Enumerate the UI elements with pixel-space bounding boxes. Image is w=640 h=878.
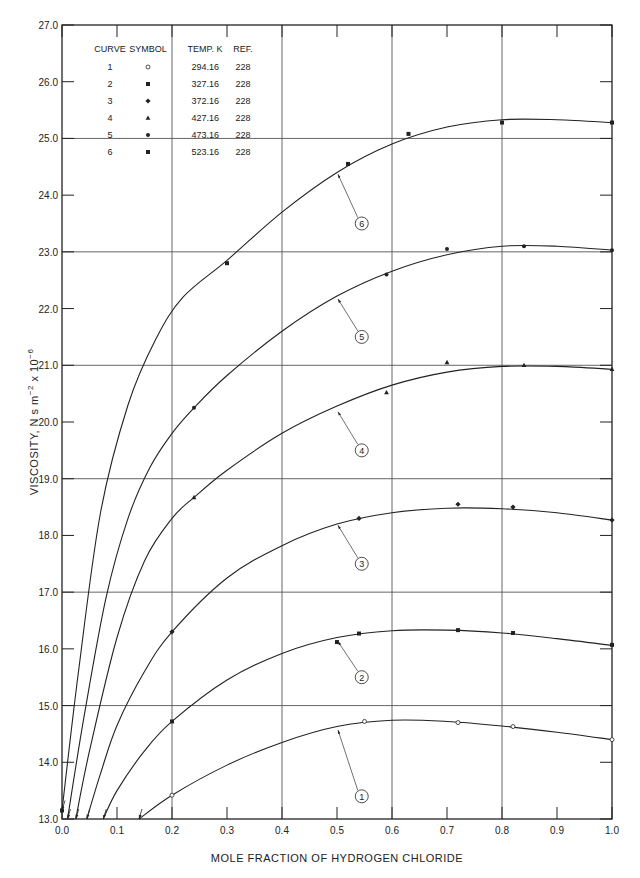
legend-curve-number: 3 — [107, 96, 112, 106]
open-circle-marker — [456, 721, 460, 725]
legend-ref: 228 — [235, 147, 250, 157]
grid-lines — [62, 25, 612, 819]
legend-ref: 228 — [235, 62, 250, 72]
curve-line — [139, 720, 612, 819]
curve-label-3: 3 — [359, 559, 364, 569]
filled-square-marker — [170, 719, 174, 723]
legend-header: TEMP. K — [188, 44, 223, 54]
leader-line-5 — [338, 299, 358, 331]
y-tick-label: 17.0 — [39, 587, 59, 598]
y-axis-title-text: VISCOSITY, N s m−2 x 10−6 — [26, 349, 40, 496]
filled-circle-marker — [385, 273, 389, 277]
filled-triangle-marker — [445, 360, 450, 364]
legend-curve-number: 1 — [107, 62, 112, 72]
filled-circle-marker — [522, 244, 526, 248]
y-axis-title-main: VISCOSITY, N s m — [28, 395, 40, 495]
curve-start-arrow — [87, 809, 90, 819]
filled-circle-marker — [192, 406, 196, 410]
curve-line — [87, 508, 612, 819]
legend-temp: 473.16 — [191, 130, 219, 140]
legend-temp: 427.16 — [191, 113, 219, 123]
curve-label-1: 1 — [359, 792, 364, 802]
viscosity-chart: 0.00.10.20.30.40.50.60.70.80.91.013.014.… — [0, 0, 640, 878]
filled-square-marker — [225, 261, 229, 265]
filled-triangle-marker — [384, 390, 389, 394]
x-tick-label: 0.0 — [55, 825, 69, 836]
curve-label-4: 4 — [359, 446, 364, 456]
filled-square-marker — [610, 121, 614, 125]
curve-label-5: 5 — [359, 332, 364, 342]
legend-ref: 228 — [235, 130, 250, 140]
filled-triangle-marker — [146, 115, 151, 119]
curve-line — [62, 119, 612, 810]
legend-temp: 294.16 — [191, 62, 219, 72]
open-circle-marker — [610, 738, 614, 742]
series-curve-6 — [60, 119, 614, 812]
filled-square-marker — [357, 632, 361, 636]
y-axis-exp-1: −2 — [26, 385, 35, 395]
filled-circle-marker — [146, 133, 150, 137]
filled-square-marker — [60, 808, 64, 812]
x-tick-label: 0.8 — [495, 825, 509, 836]
legend-curve-number: 6 — [107, 147, 112, 157]
legend-temp: 327.16 — [191, 79, 219, 89]
filled-square-marker — [146, 150, 150, 154]
curve-label-6: 6 — [359, 219, 364, 229]
open-circle-marker — [170, 793, 174, 797]
legend-curve-number: 5 — [107, 130, 112, 140]
leader-line-6 — [338, 174, 358, 217]
axes: 0.00.10.20.30.40.50.60.70.80.91.013.014.… — [39, 20, 620, 836]
filled-square-marker — [346, 162, 350, 166]
y-tick-label: 20.0 — [39, 417, 59, 428]
filled-square-marker — [146, 82, 150, 86]
legend-ref: 228 — [235, 113, 250, 123]
chart-canvas: 0.00.10.20.30.40.50.60.70.80.91.013.014.… — [0, 0, 640, 878]
x-tick-label: 0.3 — [220, 825, 234, 836]
x-tick-label: 0.7 — [440, 825, 454, 836]
x-tick-label: 0.6 — [385, 825, 399, 836]
curve-line — [68, 245, 613, 819]
y-tick-label: 27.0 — [39, 20, 59, 31]
x-tick-label: 0.4 — [275, 825, 289, 836]
y-tick-label: 18.0 — [39, 530, 59, 541]
legend-curve-number: 2 — [107, 79, 112, 89]
plot-frame — [62, 25, 612, 819]
y-tick-label: 13.0 — [39, 814, 59, 825]
y-axis-mult: x 10 — [28, 359, 40, 385]
series-curve-4 — [76, 360, 615, 819]
y-axis-title: VISCOSITY, N s m−2 x 10−6 — [26, 349, 40, 496]
filled-square-marker — [456, 628, 460, 632]
legend-table: CURVESYMBOLTEMP. KREF.1294.162282327.162… — [94, 44, 252, 157]
x-tick-label: 0.9 — [550, 825, 564, 836]
y-tick-label: 23.0 — [39, 247, 59, 258]
y-tick-label: 15.0 — [39, 701, 59, 712]
x-tick-label: 1.0 — [605, 825, 619, 836]
series-curve-5 — [68, 244, 615, 819]
filled-diamond-marker — [356, 516, 361, 521]
y-axis-exp-2: −6 — [26, 349, 35, 359]
legend-header: CURVE — [94, 44, 125, 54]
y-tick-label: 14.0 — [39, 757, 59, 768]
filled-diamond-marker — [609, 518, 614, 523]
x-tick-label: 0.2 — [165, 825, 179, 836]
leader-line-1 — [338, 730, 358, 790]
leader-line-4 — [338, 412, 358, 444]
filled-square-marker — [610, 643, 614, 647]
x-tick-label: 0.5 — [330, 825, 344, 836]
legend-header: SYMBOL — [129, 44, 167, 54]
y-tick-label: 19.0 — [39, 474, 59, 485]
filled-circle-marker — [610, 248, 614, 252]
filled-diamond-marker — [455, 502, 460, 507]
filled-diamond-marker — [145, 98, 150, 103]
filled-square-marker — [407, 132, 411, 136]
series-curve-1 — [139, 719, 614, 819]
data-series — [60, 119, 615, 819]
legend-header: REF. — [233, 44, 253, 54]
open-circle-marker — [511, 725, 515, 729]
leader-line-2 — [338, 642, 358, 672]
filled-circle-marker — [445, 247, 449, 251]
y-tick-label: 21.0 — [39, 360, 59, 371]
x-tick-label: 0.1 — [110, 825, 124, 836]
filled-square-marker — [500, 121, 504, 125]
curve-labels: 123456 — [338, 174, 368, 802]
